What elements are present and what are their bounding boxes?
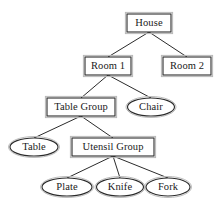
- tree-node-utensil_group[interactable]: Utensil Group: [70, 136, 155, 157]
- tree-node-room1[interactable]: Room 1: [83, 55, 132, 76]
- tree-node-chair[interactable]: Chair: [126, 97, 176, 118]
- node-label-table_group: Table Group: [54, 101, 108, 112]
- tree-diagram-canvas: HouseRoom 1Room 2Table GroupChairTableUt…: [0, 0, 223, 206]
- tree-node-plate[interactable]: Plate: [41, 177, 94, 198]
- tree-edge-room1-to-table_group: [81, 75, 108, 98]
- tree-node-room2[interactable]: Room 2: [161, 55, 212, 76]
- node-label-room2: Room 2: [170, 60, 204, 71]
- tree-edge-utensil_group-to-fork: [113, 156, 168, 178]
- node-label-table: Table: [22, 141, 46, 152]
- tree-node-knife[interactable]: Knife: [95, 177, 145, 198]
- node-label-utensil_group: Utensil Group: [82, 141, 143, 152]
- node-label-knife: Knife: [108, 181, 133, 192]
- tree-edge-table_group-to-table: [34, 116, 81, 138]
- tree-node-fork[interactable]: Fork: [145, 177, 192, 198]
- node-label-fork: Fork: [158, 181, 179, 192]
- tree-edge-house-to-room1: [108, 32, 149, 57]
- tree-node-table_group[interactable]: Table Group: [45, 96, 116, 117]
- tree-node-table[interactable]: Table: [9, 137, 60, 158]
- node-label-chair: Chair: [139, 101, 163, 112]
- node-label-plate: Plate: [56, 181, 78, 192]
- node-label-room1: Room 1: [91, 60, 125, 71]
- node-layer: HouseRoom 1Room 2Table GroupChairTableUt…: [9, 12, 213, 197]
- tree-edge-house-to-room2: [149, 32, 187, 57]
- tree-edge-utensil_group-to-plate: [67, 156, 113, 178]
- tree-diagram: HouseRoom 1Room 2Table GroupChairTableUt…: [0, 0, 223, 206]
- tree-node-house[interactable]: House: [125, 12, 172, 33]
- tree-edge-utensil_group-to-knife: [113, 156, 120, 178]
- tree-edge-room1-to-chair: [108, 75, 151, 98]
- tree-edge-table_group-to-utensil_group: [81, 116, 113, 138]
- node-label-house: House: [135, 17, 163, 28]
